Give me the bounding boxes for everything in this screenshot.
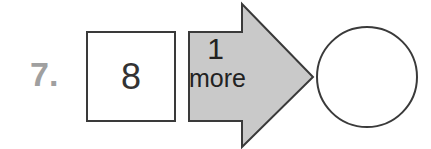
arrow-amount: 1 bbox=[189, 34, 242, 64]
arrow-label: 1 more bbox=[189, 34, 242, 92]
arrow-word: more bbox=[189, 64, 242, 92]
answer-circle[interactable] bbox=[317, 27, 417, 127]
